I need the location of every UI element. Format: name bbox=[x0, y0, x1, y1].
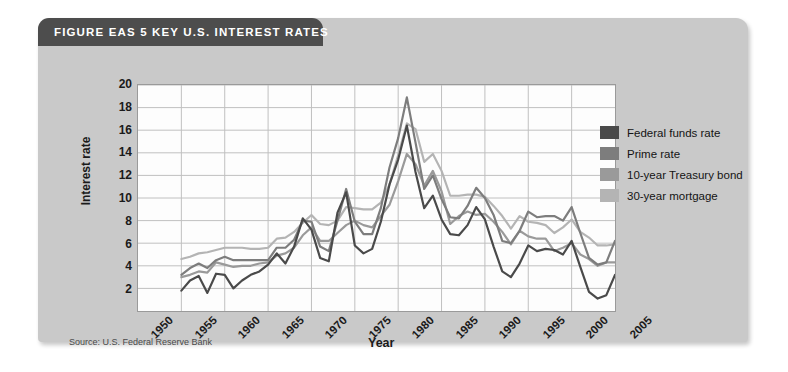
legend-item-label: 10-year Treasury bond bbox=[627, 169, 743, 181]
x-axis-tick-label: 1965 bbox=[279, 314, 306, 341]
x-axis-tick-label: 1995 bbox=[540, 314, 567, 341]
legend-color-swatch bbox=[600, 168, 619, 181]
x-axis-tick-label: 1990 bbox=[497, 314, 524, 341]
y-axis-tick-label: 20 bbox=[96, 77, 132, 91]
y-axis-tick-label: 10 bbox=[96, 191, 132, 205]
y-axis-tick-label: 2 bbox=[96, 282, 132, 296]
y-axis-tick-label: 4 bbox=[96, 259, 132, 273]
x-axis-tick-label: 2005 bbox=[627, 314, 654, 341]
chart-legend: Federal funds ratePrime rate10-year Trea… bbox=[600, 122, 750, 206]
legend-item: 10-year Treasury bond bbox=[600, 164, 750, 185]
chart-body: Interest rate 2468101214161820 195019551… bbox=[38, 46, 748, 342]
y-axis-tick-label: 6 bbox=[96, 237, 132, 251]
legend-item: Prime rate bbox=[600, 143, 750, 164]
y-axis-tick-label: 16 bbox=[96, 123, 132, 137]
y-axis-title: Interest rate bbox=[79, 111, 93, 231]
x-axis-tick-label: 1960 bbox=[236, 314, 263, 341]
x-axis-title: Year bbox=[368, 336, 394, 350]
x-axis-tick-label: 2000 bbox=[584, 314, 611, 341]
figure-panel: FIGURE EAS 5 KEY U.S. INTEREST RATES Int… bbox=[38, 18, 748, 342]
legend-item-label: Prime rate bbox=[627, 148, 680, 160]
y-axis-tick-label: 12 bbox=[96, 168, 132, 182]
legend-item: Federal funds rate bbox=[600, 122, 750, 143]
legend-item-label: 30-year mortgage bbox=[627, 190, 718, 202]
legend-color-swatch bbox=[600, 147, 619, 160]
y-axis-tick-label: 8 bbox=[96, 214, 132, 228]
y-axis-tick-label: 14 bbox=[96, 145, 132, 159]
legend-item-label: Federal funds rate bbox=[627, 127, 720, 139]
legend-color-swatch bbox=[600, 126, 619, 139]
y-axis-tick-labels: 2468101214161820 bbox=[96, 78, 132, 285]
x-axis-tick-label: 1985 bbox=[453, 314, 480, 341]
legend-color-swatch bbox=[600, 189, 619, 202]
plot-area bbox=[137, 84, 616, 312]
x-axis-tick-label: 1970 bbox=[323, 314, 350, 341]
chart-canvas bbox=[138, 85, 615, 311]
x-axis-tick-label: 1980 bbox=[410, 314, 437, 341]
source-note: Source: U.S. Federal Reserve Bank bbox=[69, 337, 212, 347]
y-axis-tick-label: 18 bbox=[96, 100, 132, 114]
figure-title: FIGURE EAS 5 KEY U.S. INTEREST RATES bbox=[38, 26, 329, 38]
legend-item: 30-year mortgage bbox=[600, 185, 750, 206]
figure-title-bar: FIGURE EAS 5 KEY U.S. INTEREST RATES bbox=[38, 18, 323, 46]
